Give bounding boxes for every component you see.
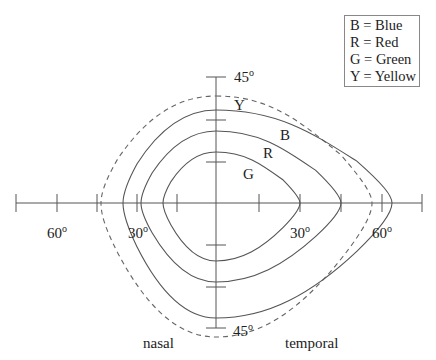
curve-label-r: R xyxy=(263,145,273,161)
degree-label: 60o xyxy=(372,223,392,241)
legend-item-green: G = Green xyxy=(350,51,419,68)
curve-label-y: Y xyxy=(234,97,245,113)
degree-label: 30o xyxy=(128,223,148,241)
degree-label: 60o xyxy=(47,223,67,241)
legend: B = Blue R = Red G = Green Y = Yellow xyxy=(344,15,420,87)
legend-item-yellow: Y = Yellow xyxy=(350,68,419,85)
temporal-label: temporal xyxy=(285,335,338,351)
legend-item-red: R = Red xyxy=(350,34,419,51)
field-curves xyxy=(101,96,392,337)
curve-label-g: G xyxy=(243,166,254,182)
axes xyxy=(16,77,422,328)
legend-item-blue: B = Blue xyxy=(350,17,419,34)
curve-label-b: B xyxy=(280,127,290,143)
field-curve-blue xyxy=(123,110,392,318)
degree-label: 45o xyxy=(234,67,254,85)
degree-label: 30o xyxy=(290,223,310,241)
field-curve-green xyxy=(163,152,300,261)
nasal-label: nasal xyxy=(143,335,174,351)
degree-label: 45o xyxy=(233,321,253,339)
field-curve-red xyxy=(141,131,341,282)
